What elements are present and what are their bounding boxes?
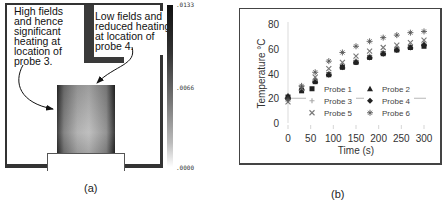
marker-x <box>381 45 386 50</box>
x-tick-label: 50 <box>305 133 317 144</box>
legend-label: Probe 3 <box>324 97 353 106</box>
marker-asterisk <box>353 43 359 49</box>
annotation-arrows <box>5 3 163 168</box>
marker-square <box>310 86 315 91</box>
marker-asterisk <box>394 32 400 38</box>
temperature-chart-panel: 020406080050100150200250300Time (s)Tempe… <box>239 8 442 165</box>
x-tick-label: 150 <box>348 133 365 144</box>
y-tick-label: 60 <box>268 44 280 55</box>
y-tick-label: 80 <box>268 19 280 30</box>
x-tick-label: 0 <box>285 133 291 144</box>
marker-asterisk <box>380 35 386 41</box>
colorbar-max-label: .0133 <box>176 1 194 8</box>
marker-asterisk <box>421 28 427 34</box>
field-simulation-panel: High fields and hence significant heatin… <box>5 3 163 168</box>
marker-asterisk <box>326 58 332 64</box>
caption-a: (a) <box>84 182 97 194</box>
y-tick-label: 0 <box>273 118 279 129</box>
x-tick-label: 200 <box>370 133 387 144</box>
y-tick-label: 40 <box>268 69 280 80</box>
arrow-to-probe-4 <box>97 47 133 83</box>
marker-asterisk <box>339 49 345 55</box>
colorbar <box>167 5 173 167</box>
y-tick-label: 20 <box>268 93 280 104</box>
arrow-to-probe-3 <box>19 65 53 109</box>
legend-label: Probe 6 <box>382 109 411 118</box>
marker-asterisk <box>367 38 373 44</box>
legend-label: Probe 1 <box>324 85 353 94</box>
y-axis-label: Temperature °C <box>256 38 267 108</box>
legend-label: Probe 2 <box>382 85 411 94</box>
marker-x <box>354 54 359 59</box>
caption-b: (b) <box>331 188 344 200</box>
x-tick-label: 250 <box>393 133 410 144</box>
marker-x <box>326 66 331 71</box>
legend-label: Probe 5 <box>324 109 353 118</box>
colorbar-mid-label: .0066 <box>176 84 194 91</box>
marker-asterisk <box>407 30 413 36</box>
x-tick-label: 300 <box>416 133 433 144</box>
x-axis-label: Time (s) <box>338 145 374 156</box>
temperature-chart: 020406080050100150200250300Time (s)Tempe… <box>240 9 441 164</box>
marker-x <box>367 49 372 54</box>
colorbar-min-label: .0000 <box>176 164 194 171</box>
legend-label: Probe 4 <box>382 97 411 106</box>
marker-asterisk <box>299 83 305 89</box>
x-tick-label: 100 <box>325 133 342 144</box>
